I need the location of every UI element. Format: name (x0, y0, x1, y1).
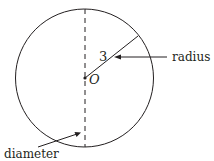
diameter-label: diameter (4, 147, 59, 161)
radius-arrow (114, 55, 167, 60)
center-label: O (89, 72, 100, 87)
radius-label: radius (172, 50, 210, 64)
radius-value: 3 (99, 49, 107, 64)
circle-diagram: 3 O radius diameter (0, 0, 214, 161)
center-point (83, 76, 86, 79)
